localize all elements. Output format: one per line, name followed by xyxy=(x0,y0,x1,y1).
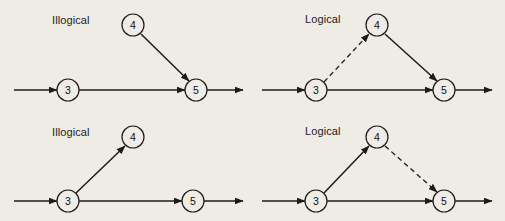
node-top-left-n4: 4 xyxy=(122,14,144,36)
node-number: 4 xyxy=(130,19,136,31)
node-bottom-right-n3: 3 xyxy=(305,190,327,212)
node-number: 4 xyxy=(374,19,380,31)
node-top-right-n3: 3 xyxy=(305,79,327,101)
node-number: 5 xyxy=(193,84,199,96)
panel-label-top-right: Logical xyxy=(305,13,341,25)
node-number: 5 xyxy=(190,195,196,207)
node-bottom-left-n4: 4 xyxy=(122,126,144,148)
edges-layer xyxy=(14,34,492,201)
network-diagram: 345345345345 xyxy=(0,0,505,221)
edge-bottom-left-e3-4 xyxy=(76,146,125,193)
node-number: 3 xyxy=(65,84,71,96)
edge-bottom-right-e4-5 xyxy=(385,146,437,192)
node-bottom-right-n4: 4 xyxy=(366,126,388,148)
node-number: 5 xyxy=(441,195,447,207)
panel-label-bottom-right: Logical xyxy=(305,125,341,137)
node-number: 4 xyxy=(130,131,136,143)
node-top-left-n3: 3 xyxy=(57,79,79,101)
node-number: 3 xyxy=(313,84,319,96)
edge-top-right-e3-4 xyxy=(324,34,369,82)
edge-top-right-e4-5 xyxy=(385,34,437,81)
node-top-left-n5: 5 xyxy=(185,79,207,101)
node-number: 4 xyxy=(374,131,380,143)
node-number: 5 xyxy=(441,84,447,96)
node-top-right-n5: 5 xyxy=(433,79,455,101)
node-number: 3 xyxy=(65,195,71,207)
node-top-right-n4: 4 xyxy=(366,14,388,36)
node-bottom-left-n5: 5 xyxy=(182,190,204,212)
node-bottom-left-n3: 3 xyxy=(57,190,79,212)
figure-canvas: 345345345345 IllogicalLogicalIllogicalLo… xyxy=(0,0,505,221)
node-bottom-right-n5: 5 xyxy=(433,190,455,212)
node-number: 3 xyxy=(313,195,319,207)
edge-bottom-right-e3-4 xyxy=(324,146,369,193)
panel-label-top-left: Illogical xyxy=(52,14,90,26)
edge-top-left-e4-5 xyxy=(141,34,189,81)
panel-label-bottom-left: Illogical xyxy=(52,126,90,138)
